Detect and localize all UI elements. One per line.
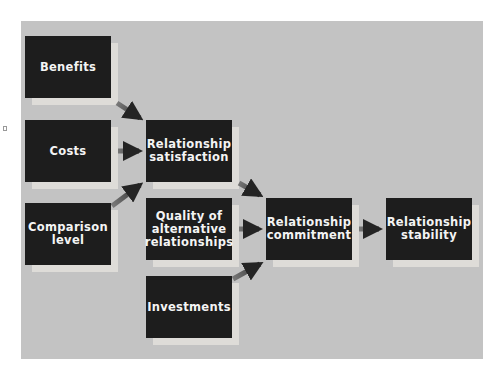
node-quality-of-alternatives: Quality of alternative relationships	[146, 198, 232, 260]
node-benefits: Benefits	[25, 36, 111, 98]
node-investments: Investments	[146, 276, 232, 338]
arrow-satisfaction-to-commitment	[239, 183, 260, 195]
node-costs: Costs	[25, 120, 111, 182]
node-relationship-satisfaction: Relationship satisfaction	[146, 120, 232, 182]
arrow-benefits-to-satisfaction	[117, 103, 140, 118]
arrow-investments-to-commitment	[233, 264, 260, 279]
node-relationship-commitment: Relationship commitment	[266, 198, 352, 260]
node-comparison-level: Comparison level	[25, 203, 111, 265]
arrow-comparison-to-satisfaction	[112, 185, 140, 206]
node-relationship-stability: Relationship stability	[386, 198, 472, 260]
